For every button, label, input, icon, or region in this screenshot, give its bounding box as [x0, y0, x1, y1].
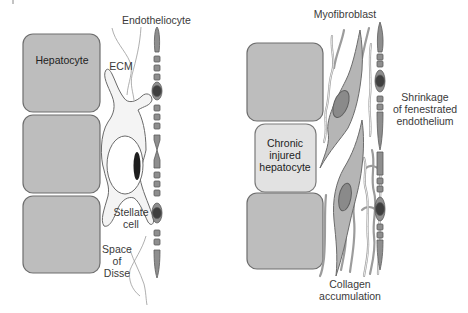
label-hepatocyte: Hepatocyte [35, 54, 88, 66]
endothelial-segment [154, 65, 160, 71]
endothelial-segment [154, 239, 160, 245]
hepatocyte-column-left [23, 34, 100, 273]
hepatocyte-cell [247, 193, 323, 269]
label-injured-hepatocyte-line3: hepatocyte [259, 161, 311, 173]
endothelial-segment [154, 181, 160, 187]
endothelial-segment [154, 190, 160, 196]
endothelium-right [375, 22, 385, 270]
label-shrinkage-line2: of fenestrated [393, 103, 457, 115]
endotheliocyte-nucleus [153, 86, 162, 97]
endothelial-segment [154, 135, 160, 168]
label-injured-hepatocyte-line2: injured [269, 149, 301, 161]
endotheliocyte-nucleus [376, 75, 385, 87]
right-panel-fibrotic: Myofibroblast Chronic injured hepatocyte… [247, 8, 457, 302]
label-collagen-line1: Collagen [329, 278, 371, 290]
label-injured-hepatocyte-line1: Chronic [267, 137, 303, 149]
endotheliocyte-nucleus [153, 208, 162, 219]
endothelial-segment [154, 114, 160, 120]
label-shrinkage-line3: endothelium [396, 115, 453, 127]
hepatocyte-cell [23, 196, 100, 273]
liver-fibrosis-diagram: Hepatocyte ECM Endotheliocyte Stellate c… [0, 0, 468, 313]
label-space-of-disse-line3: Disse [104, 267, 130, 279]
label-space-of-disse-line2: of [113, 255, 122, 267]
label-collagen-line2: accumulation [319, 290, 381, 302]
endothelium-left [152, 27, 162, 278]
stellate-nucleus [134, 152, 141, 180]
endothelial-segment [154, 230, 160, 236]
endothelial-segment [154, 56, 160, 62]
endothelial-segment [154, 172, 160, 178]
endothelial-segment [154, 123, 160, 129]
hepatocyte-cell [23, 34, 100, 112]
label-shrinkage-line1: Shrinkage [401, 91, 448, 103]
label-endotheliocyte: Endotheliocyte [122, 14, 191, 26]
endothelial-segment [154, 250, 160, 278]
left-panel-normal: Hepatocyte ECM Endotheliocyte Stellate c… [23, 14, 191, 305]
myofibroblast-lower [333, 120, 363, 276]
label-myofibroblast: Myofibroblast [314, 8, 377, 20]
endothelial-segment [154, 105, 160, 111]
label-stellate-cell-line2: cell [123, 218, 139, 230]
endothelial-segment [154, 27, 159, 52]
label-stellate-cell-line1: Stellate [113, 206, 148, 218]
label-ecm: ECM [109, 60, 132, 72]
endothelial-segment [154, 74, 160, 80]
label-space-of-disse-line1: Space [102, 243, 132, 255]
hepatocyte-cell [23, 115, 100, 193]
hepatocyte-cell [247, 43, 323, 121]
endotheliocyte-nucleus [376, 203, 385, 216]
